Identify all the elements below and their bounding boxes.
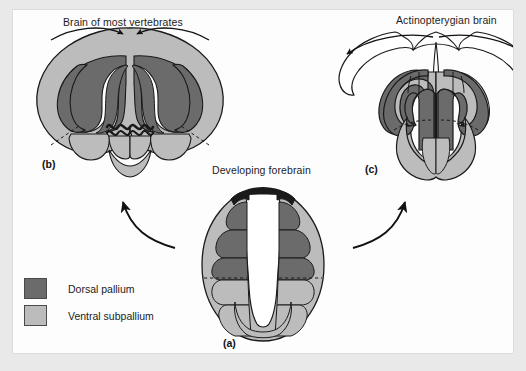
legend-item-ventral-subpallium: Ventral subpallium <box>24 302 214 329</box>
panel-b-ventral-lobe-right-outer <box>151 134 191 160</box>
panel-c-midline-membrane <box>413 32 459 50</box>
panel-label-a: (a) <box>223 337 236 349</box>
figure-panel: Brain of most vertebrates Developing for… <box>13 10 513 353</box>
legend-swatch-dorsal-pallium <box>24 278 47 299</box>
legend-label-ventral-subpallium: Ventral subpallium <box>68 310 154 322</box>
figure-root: Brain of most vertebrates Developing for… <box>0 0 526 371</box>
panel-c-title: Actinopterygian brain <box>396 14 497 26</box>
panel-a-left-pallium-seg3 <box>212 258 248 280</box>
panel-b-title: Brain of most vertebrates <box>63 16 183 28</box>
panel-a-right-subpallium-seg1 <box>277 280 314 305</box>
panel-a-left-subpallium-seg1 <box>212 280 249 305</box>
transform-arrow-to-panel-c <box>353 202 405 248</box>
panel-c-everted-brain <box>339 32 513 180</box>
legend-swatch-ventral-subpallium <box>24 305 47 326</box>
panel-a-title: Developing forebrain <box>212 164 311 176</box>
legend: Dorsal pallium Ventral subpallium <box>24 275 214 329</box>
panel-label-b: (b) <box>42 158 55 170</box>
transform-arrow-to-panel-b <box>123 202 175 248</box>
panel-a-developing-forebrain <box>202 187 324 341</box>
legend-label-dorsal-pallium: Dorsal pallium <box>68 283 135 295</box>
panel-a-right-pallium-seg3 <box>278 258 314 280</box>
legend-item-dorsal-pallium: Dorsal pallium <box>24 275 214 302</box>
panel-label-c: (c) <box>365 163 378 175</box>
panel-b-ventral-lobe-left-outer <box>69 134 109 160</box>
panel-b-evaginated-brain <box>37 28 223 177</box>
